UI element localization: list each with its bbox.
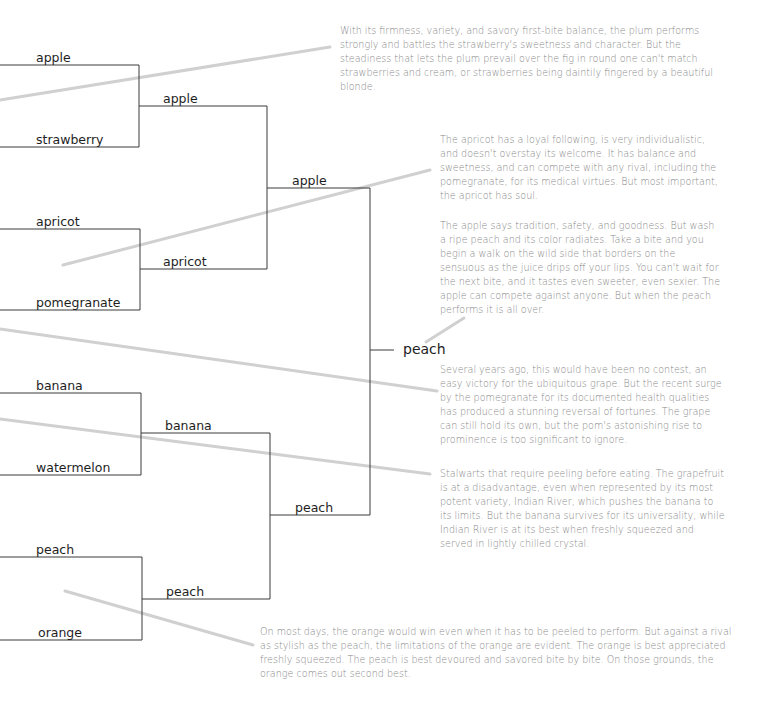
- note-banana-grapefruit: Stalwarts that require peeling before ea…: [440, 467, 725, 551]
- r1-label-5: banana: [36, 378, 83, 393]
- leader-apple-peach: [426, 318, 464, 342]
- note-grape-pomegranate: Several years ago, this would have been …: [440, 363, 725, 447]
- note-apple-peach: The apple says tradition, safety, and go…: [440, 219, 722, 317]
- match-apple-apricot: [139, 106, 267, 269]
- leader-apricot-pomegranate: [63, 170, 430, 265]
- r3-label-2: peach: [295, 500, 333, 515]
- r1-label-7: peach: [36, 542, 74, 557]
- r2-label-3: banana: [165, 418, 212, 433]
- r3-label-1: apple: [292, 173, 327, 188]
- r2-label-2: apricot: [163, 254, 207, 269]
- match-banana-peach: [141, 433, 270, 599]
- r2-label-1: apple: [163, 91, 198, 106]
- r1-label-6: watermelon: [36, 460, 110, 475]
- r1-label-4: pomegranate: [36, 295, 120, 310]
- note-peach-orange: On most days, the orange would win even …: [260, 625, 732, 681]
- r1-label-2: strawberry: [36, 132, 104, 147]
- bracket-lines: [0, 0, 766, 715]
- winner-label: peach: [403, 341, 446, 357]
- r1-label-8: orange: [38, 625, 82, 640]
- match-final: [267, 188, 370, 515]
- r1-label-1: apple: [36, 50, 71, 65]
- r2-label-4: peach: [166, 584, 204, 599]
- note-plum-strawberry: With its firmness, variety, and savory f…: [340, 24, 732, 94]
- r1-label-3: apricot: [36, 214, 80, 229]
- note-apricot-pomegranate: The apricot has a loyal following, is ve…: [440, 133, 722, 203]
